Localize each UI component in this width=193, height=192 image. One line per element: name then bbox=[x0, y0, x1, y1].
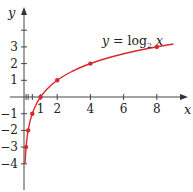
data-point bbox=[24, 145, 28, 149]
log-curve bbox=[25, 44, 173, 164]
y-tick-label: −2 bbox=[0, 123, 18, 137]
data-point bbox=[88, 61, 92, 65]
x-axis-arrow-icon bbox=[180, 94, 188, 100]
function-label-eq: = log bbox=[109, 33, 147, 48]
y-axis-arrow-icon bbox=[21, 7, 27, 15]
y-tick-label: −1 bbox=[0, 107, 18, 121]
x-tick-label: 6 bbox=[120, 102, 128, 116]
x-tick-label: 4 bbox=[87, 102, 95, 116]
y-tick-label: 1 bbox=[10, 73, 18, 87]
x-tick-label: 1 bbox=[37, 102, 45, 116]
y-tick-label: −4 bbox=[0, 157, 18, 171]
x-tick-label: 2 bbox=[53, 102, 61, 116]
y-tick-label: 3 bbox=[10, 40, 18, 54]
x-axis-label: x bbox=[184, 102, 192, 117]
data-point bbox=[38, 95, 42, 99]
data-point bbox=[30, 112, 34, 116]
function-label-var: x bbox=[152, 33, 163, 48]
data-point bbox=[26, 128, 30, 132]
log-chart: 12468−4−3−2−1123 x y y = log2 x bbox=[0, 0, 193, 192]
x-tick-label: 8 bbox=[153, 102, 161, 116]
data-point bbox=[55, 78, 59, 82]
y-axis-label: y bbox=[7, 5, 16, 20]
y-tick-label: −3 bbox=[0, 140, 18, 154]
function-label: y = log2 x bbox=[101, 33, 163, 50]
y-tick-label: 2 bbox=[10, 57, 18, 71]
